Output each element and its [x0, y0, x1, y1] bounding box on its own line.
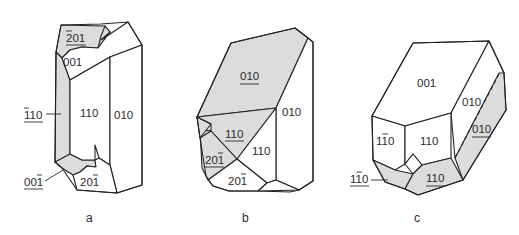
- label-b-010: 010: [282, 106, 301, 118]
- label-c-1bar10-under: 110: [350, 173, 368, 185]
- label-c-1bar10: 110: [376, 135, 394, 147]
- crystal-a: [55, 22, 142, 193]
- caption-b: b: [242, 211, 249, 225]
- label-a-001: 001: [63, 56, 82, 68]
- label-a-010: 010: [114, 109, 133, 121]
- crystal-habit-figure: 201 001 110 110 010 001 201 a 010: [0, 0, 519, 235]
- label-a-1bar10: 110: [24, 109, 42, 121]
- label-a-201bar: 201: [80, 176, 99, 188]
- label-b-201bar-under: 201: [205, 154, 224, 166]
- label-c-010-under: 010: [472, 123, 491, 135]
- label-b-110-under: 110: [225, 128, 243, 140]
- label-a-201bar-top: 201: [66, 32, 85, 44]
- label-a-110: 110: [80, 107, 98, 119]
- caption-a: a: [86, 211, 93, 225]
- label-b-201bar: 201: [228, 175, 247, 187]
- label-c-110-under: 110: [426, 172, 444, 184]
- label-c-010: 010: [462, 96, 481, 108]
- label-b-010-under: 010: [240, 70, 259, 82]
- label-a-001bar: 001: [24, 176, 43, 188]
- label-c-110: 110: [420, 135, 438, 147]
- caption-c: c: [414, 211, 420, 225]
- label-b-110: 110: [252, 145, 270, 157]
- label-c-001: 001: [417, 77, 436, 89]
